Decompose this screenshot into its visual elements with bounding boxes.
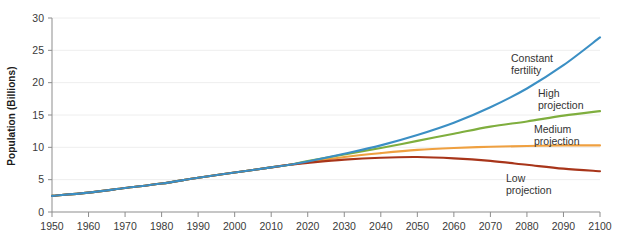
y-tick-label: 5 [38,173,44,185]
series-label-constant-fertility: Constantfertility [511,52,553,76]
y-tick-label: 30 [32,12,44,24]
x-tick-label: 2030 [333,220,357,232]
x-tick-label: 1970 [113,220,137,232]
series-labels-group: ConstantfertilityHighprojectionMediumpro… [506,52,584,196]
y-tick-label: 0 [38,206,44,218]
ytick-labels-group: 051015202530 [32,12,44,218]
x-tick-label: 1950 [40,220,64,232]
x-tick-label: 2100 [588,220,612,232]
ytick-marks-group [48,18,52,212]
series-label-high-projection: Highprojection [538,87,584,111]
x-tick-label: 1990 [186,220,210,232]
y-tick-label: 15 [32,109,44,121]
chart-canvas: 051015202530 195019601970198019902000201… [0,0,621,246]
y-tick-label: 20 [32,76,44,88]
xtick-marks-group [52,212,600,217]
series-label-low-projection: Lowprojection [506,172,552,196]
x-tick-label: 2070 [479,220,503,232]
y-tick-label: 10 [32,141,44,153]
series-label-medium-projection: Mediumprojection [534,123,580,147]
x-tick-label: 1980 [150,220,174,232]
x-tick-label: 2020 [296,220,320,232]
x-tick-label: 2040 [369,220,393,232]
x-tick-label: 2050 [406,220,430,232]
x-tick-label: 2000 [223,220,247,232]
population-projection-chart: 051015202530 195019601970198019902000201… [0,0,621,246]
gridlines-group [52,18,600,180]
xtick-labels-group: 1950196019701980199020002010202020302040… [40,220,612,232]
x-tick-label: 2010 [260,220,284,232]
y-tick-label: 25 [32,44,44,56]
x-tick-label: 2090 [552,220,576,232]
x-tick-label: 2080 [515,220,539,232]
x-tick-label: 1960 [77,220,101,232]
x-tick-label: 2060 [442,220,466,232]
y-axis-title: Population (Billions) [6,66,17,165]
